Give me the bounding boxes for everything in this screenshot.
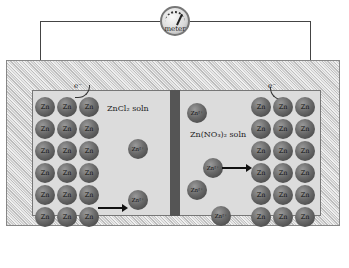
zinc-ion: Zn²⁺ <box>187 180 207 200</box>
zinc-atom: Zn <box>295 97 315 117</box>
zinc-atom: Zn <box>273 163 293 183</box>
zinc-atom: Zn <box>295 185 315 205</box>
right-ion-migration-arrow <box>222 167 248 169</box>
zinc-atom: Zn <box>35 207 55 227</box>
zinc-atom: Zn <box>273 207 293 227</box>
zinc-atom: Zn <box>295 141 315 161</box>
left-solution-label: ZnCl₂ soln <box>107 104 149 113</box>
zinc-atom: Zn <box>79 119 99 139</box>
zinc-atom: Zn <box>57 141 77 161</box>
zinc-atom: Zn <box>273 97 293 117</box>
zinc-atom: Zn <box>79 163 99 183</box>
zinc-ion: Zn²⁺ <box>211 206 231 226</box>
zinc-atom: Zn <box>35 185 55 205</box>
zinc-ion: Zn²⁺ <box>187 103 207 123</box>
zinc-atom: Zn <box>57 119 77 139</box>
right-solution-label: Zn(NO₃)₂ soln <box>190 130 246 139</box>
zinc-atom: Zn <box>35 119 55 139</box>
zinc-atom: Zn <box>57 207 77 227</box>
zinc-atom: Zn <box>295 119 315 139</box>
zinc-atom: Zn <box>35 163 55 183</box>
zinc-atom: Zn <box>251 97 271 117</box>
wire-top-right <box>190 21 310 22</box>
zinc-atom: Zn <box>57 185 77 205</box>
zinc-atom: Zn <box>295 163 315 183</box>
zinc-atom: Zn <box>79 185 99 205</box>
zinc-atom: Zn <box>295 207 315 227</box>
zinc-atom: Zn <box>35 141 55 161</box>
zinc-atom: Zn <box>57 163 77 183</box>
zinc-atom: Zn <box>57 97 77 117</box>
zinc-atom: Zn <box>251 119 271 139</box>
zinc-ion: Zn²⁺ <box>128 139 148 159</box>
zinc-atom: Zn <box>79 97 99 117</box>
meter-label: meter <box>162 25 188 33</box>
zinc-atom: Zn <box>273 119 293 139</box>
zinc-atom: Zn <box>251 163 271 183</box>
zinc-atom: Zn <box>273 141 293 161</box>
zinc-atom: Zn <box>251 141 271 161</box>
zinc-ion: Zn²⁺ <box>128 190 148 210</box>
zinc-ion: Zn²⁺ <box>203 158 223 178</box>
zinc-atom: Zn <box>79 207 99 227</box>
salt-bridge-divider <box>170 90 180 216</box>
left-ion-migration-arrow <box>98 207 124 209</box>
wire-top-left <box>40 21 160 22</box>
zinc-atom: Zn <box>251 207 271 227</box>
meter: meter <box>160 6 190 36</box>
zinc-atom: Zn <box>251 185 271 205</box>
zinc-atom: Zn <box>273 185 293 205</box>
zinc-atom: Zn <box>35 97 55 117</box>
zinc-atom: Zn <box>79 141 99 161</box>
